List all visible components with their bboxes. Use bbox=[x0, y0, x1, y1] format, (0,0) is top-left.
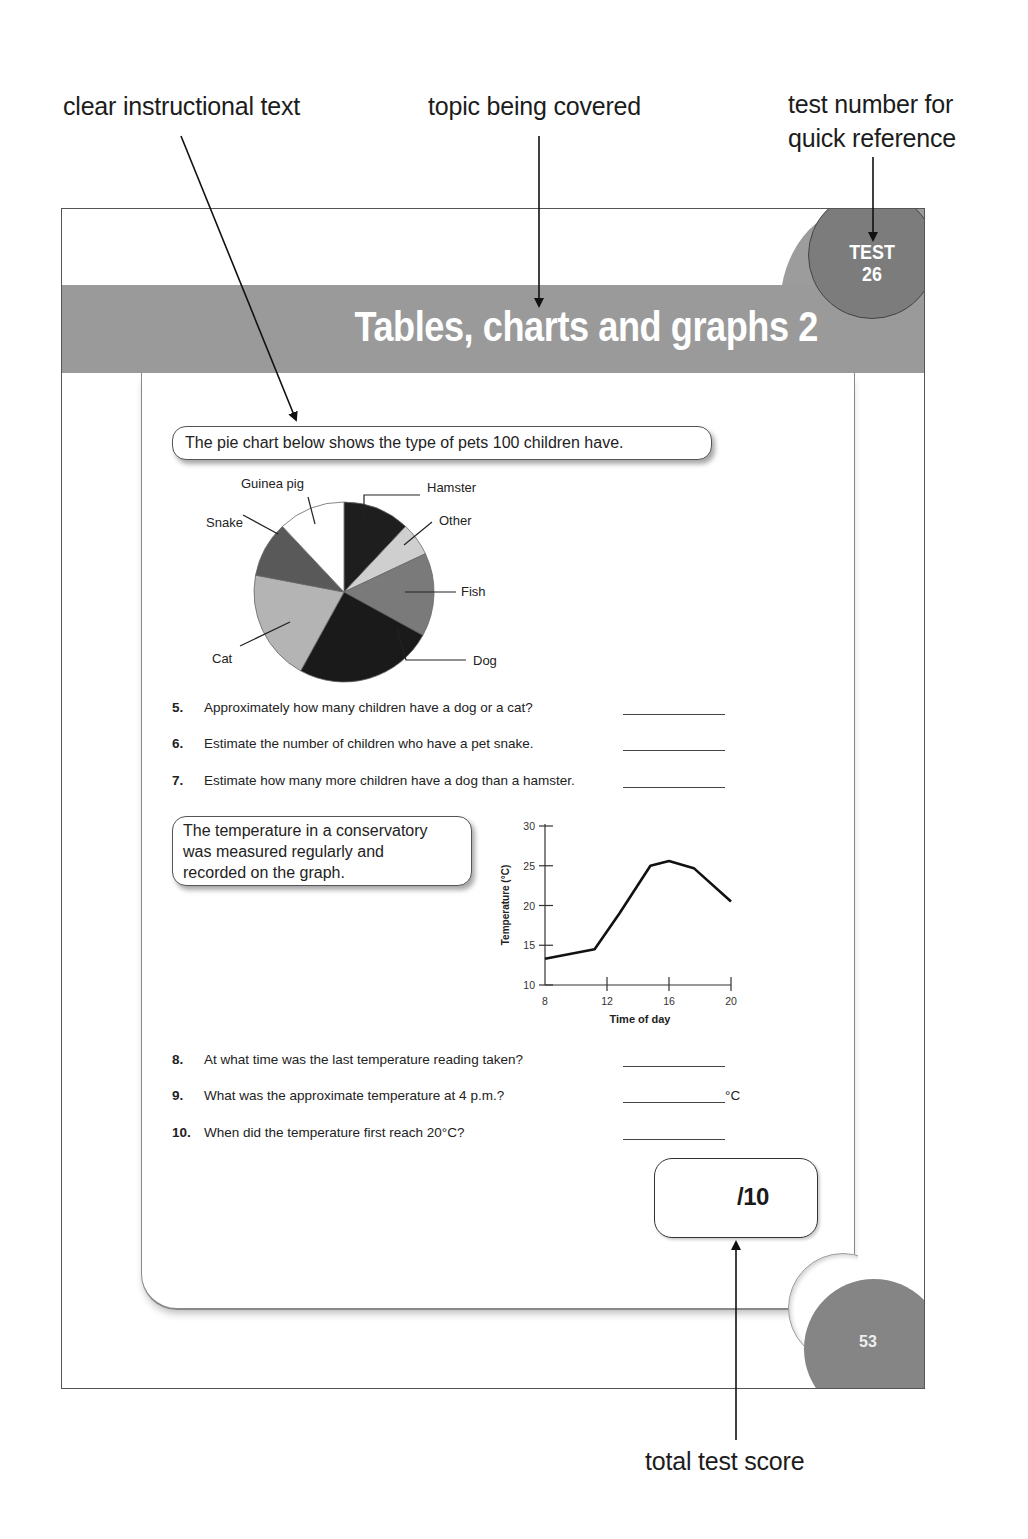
answer-line[interactable] bbox=[623, 787, 725, 788]
answer-line[interactable] bbox=[623, 714, 725, 715]
temperature-series bbox=[545, 861, 731, 959]
question-number: 10. bbox=[172, 1125, 191, 1140]
y-tick-label: 10 bbox=[523, 979, 535, 991]
test-number: 26 bbox=[818, 264, 925, 284]
y-axis-label: Temperature (°C) bbox=[500, 865, 511, 946]
page-title: Tables, charts and graphs 2 bbox=[355, 303, 818, 351]
question-number: 8. bbox=[172, 1052, 183, 1067]
x-tick-label: 12 bbox=[601, 995, 613, 1007]
question-number: 7. bbox=[172, 773, 183, 788]
instruction-text-pie: The pie chart below shows the type of pe… bbox=[185, 434, 623, 451]
question-text: At what time was the last temperature re… bbox=[204, 1052, 523, 1067]
instruction-line: The temperature in a conservatory bbox=[183, 820, 471, 841]
pie-chart: HamsterOtherFishDogCatSnakeGuinea pig bbox=[180, 470, 520, 685]
answer-line[interactable] bbox=[623, 750, 725, 751]
score-box: /10 bbox=[654, 1158, 818, 1238]
question-text: Estimate how many more children have a d… bbox=[204, 773, 575, 788]
question-text: When did the temperature first reach 20°… bbox=[204, 1125, 465, 1140]
question-number: 6. bbox=[172, 736, 183, 751]
answer-line[interactable] bbox=[623, 1139, 725, 1140]
temperature-line-graph: 10152025308121620 Time of day Temperatur… bbox=[490, 810, 760, 1035]
y-tick-label: 25 bbox=[523, 860, 535, 872]
question-number: 9. bbox=[172, 1088, 183, 1103]
question-row: 9.What was the approximate temperature a… bbox=[172, 1088, 752, 1106]
score-total: /10 bbox=[737, 1183, 769, 1211]
pie-label: Other bbox=[439, 513, 472, 528]
question-text: Estimate the number of children who have… bbox=[204, 736, 533, 751]
instruction-box-graph: The temperature in a conservatory was me… bbox=[172, 816, 472, 886]
y-tick-label: 30 bbox=[523, 820, 535, 832]
y-tick-label: 15 bbox=[523, 939, 535, 951]
question-row: 8.At what time was the last temperature … bbox=[172, 1052, 752, 1070]
callout-test-number-line2: quick reference bbox=[788, 121, 956, 155]
pie-label: Dog bbox=[473, 653, 497, 668]
instruction-line: was measured regularly and bbox=[183, 841, 471, 862]
question-text: What was the approximate temperature at … bbox=[204, 1088, 504, 1103]
pie-label: Cat bbox=[212, 651, 233, 666]
x-tick-label: 20 bbox=[725, 995, 737, 1007]
question-text: Approximately how many children have a d… bbox=[204, 700, 533, 715]
x-axis-label: Time of day bbox=[610, 1013, 672, 1025]
x-tick-label: 8 bbox=[542, 995, 548, 1007]
instruction-box-pie: The pie chart below shows the type of pe… bbox=[172, 426, 712, 460]
answer-unit: °C bbox=[725, 1088, 740, 1103]
y-tick-label: 20 bbox=[523, 900, 535, 912]
question-row: 10.When did the temperature first reach … bbox=[172, 1125, 752, 1143]
question-row: 6.Estimate the number of children who ha… bbox=[172, 736, 752, 754]
pie-label: Guinea pig bbox=[241, 476, 304, 491]
pie-label: Fish bbox=[461, 584, 486, 599]
page-number: 53 bbox=[859, 1333, 877, 1351]
question-number: 5. bbox=[172, 700, 183, 715]
answer-line[interactable] bbox=[623, 1102, 725, 1103]
test-label: TEST bbox=[818, 242, 925, 262]
question-row: 5.Approximately how many children have a… bbox=[172, 700, 752, 718]
answer-line[interactable] bbox=[623, 1066, 725, 1067]
pie-label: Hamster bbox=[427, 480, 477, 495]
callout-test-number-line1: test number for bbox=[788, 87, 953, 121]
callout-total-score: total test score bbox=[645, 1444, 804, 1478]
callout-topic: topic being covered bbox=[428, 89, 641, 123]
instruction-line: recorded on the graph. bbox=[183, 862, 471, 883]
x-tick-label: 16 bbox=[663, 995, 675, 1007]
question-row: 7.Estimate how many more children have a… bbox=[172, 773, 752, 791]
pie-label: Snake bbox=[206, 515, 243, 530]
callout-instructional-text: clear instructional text bbox=[63, 89, 300, 123]
